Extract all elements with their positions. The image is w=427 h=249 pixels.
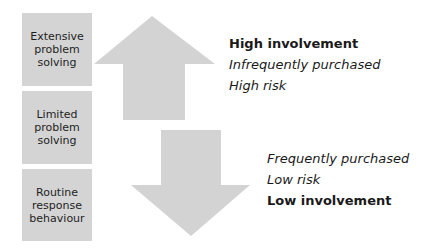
low-involvement-label: Low involvement [267, 190, 409, 211]
low-risk-label: Low risk [267, 169, 409, 190]
frequently-purchased-label: Frequently purchased [267, 148, 409, 169]
bottom-labels: Frequently purchased Low risk Low involv… [267, 148, 409, 211]
down-arrow-icon [131, 130, 250, 236]
infrequently-purchased-label: Infrequently purchased [229, 54, 380, 75]
up-arrow-icon [94, 16, 215, 120]
high-risk-label: High risk [229, 75, 380, 96]
high-involvement-label: High involvement [229, 33, 380, 54]
top-labels: High involvement Infrequently purchased … [229, 33, 380, 96]
